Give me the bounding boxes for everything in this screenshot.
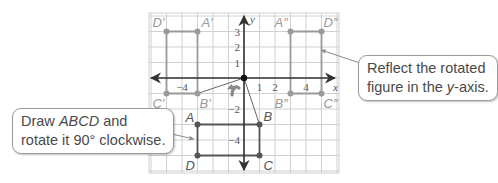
y-tick-label: −2 <box>228 103 240 115</box>
callout-draw-and-rotate: Draw ABCD and rotate it 90° clockwise. <box>12 108 174 154</box>
vertex-label: B′ <box>200 96 212 111</box>
x-tick-label: 2 <box>272 81 278 93</box>
x-axis-label: x <box>332 81 338 93</box>
vertex-label: C″ <box>324 96 338 111</box>
vertex-label: A′ <box>201 15 214 30</box>
vertex-point <box>195 153 201 159</box>
vertex-point <box>195 122 201 128</box>
vertex-point <box>164 91 170 97</box>
x-tick-label: 4 <box>303 81 309 93</box>
vertex-label: B <box>264 109 273 124</box>
vertex-label: D <box>186 158 195 173</box>
vertex-point <box>257 153 263 159</box>
callout-text: Reflect the rotated <box>367 59 489 78</box>
vertex-point <box>288 29 294 35</box>
vertex-label: D′ <box>153 15 165 30</box>
callout-text-italic: y <box>447 79 454 95</box>
callout-text: -axis. <box>454 79 489 95</box>
vertex-point <box>164 29 170 35</box>
origin-point <box>241 75 247 81</box>
y-tick-label: −4 <box>228 134 240 146</box>
vertex-point <box>257 122 263 128</box>
callout-text: and <box>99 113 127 129</box>
x-tick-label: −4 <box>176 81 188 93</box>
y-axis-label: y <box>249 13 255 25</box>
x-tick-label: 1 <box>257 81 263 93</box>
callout-text-italic: ABCD <box>59 113 99 129</box>
vertex-label: B″ <box>275 96 289 111</box>
vertex-label: C <box>264 158 274 173</box>
callout-text: figure in the <box>367 79 447 95</box>
callout-reflect: Reflect the rotated figure in the y-axis… <box>358 55 498 101</box>
callout-text: rotate it 90° clockwise. <box>21 131 165 150</box>
vertex-label: A″ <box>274 15 289 30</box>
vertex-label: D″ <box>324 15 338 30</box>
y-tick-label: 1 <box>235 57 241 69</box>
y-tick-label: 3 <box>235 26 241 38</box>
vertex-point <box>195 29 201 35</box>
callout-text: Draw <box>21 113 59 129</box>
vertex-point <box>288 91 294 97</box>
vertex-label: A <box>185 110 195 125</box>
y-tick-label: 2 <box>235 41 241 53</box>
